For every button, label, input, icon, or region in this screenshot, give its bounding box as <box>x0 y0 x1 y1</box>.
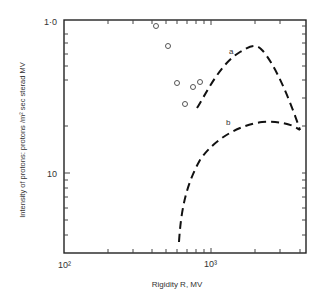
curve-a-label: a <box>229 47 234 56</box>
y-axis-ticks-left <box>64 34 70 235</box>
chart: 1·0 10 10² 10³ Rigidity R, MV Intensity … <box>0 0 322 305</box>
curve-b-label: b <box>226 118 231 127</box>
x-axis-ticks-top <box>108 20 280 25</box>
x-tick-label-10-2: 10² <box>58 260 71 270</box>
x-axis-title: Rigidity R, MV <box>152 280 203 289</box>
y-tick-label-top: 1·0 <box>44 17 57 27</box>
x-tick-label-10-3: 10³ <box>204 259 217 269</box>
curve-a <box>197 46 300 130</box>
y-axis-title: Intensity of protons: protons /m² sec st… <box>18 62 27 217</box>
curve-b <box>179 122 300 242</box>
data-points <box>154 24 203 107</box>
x-axis-ticks-bottom <box>108 248 300 253</box>
plot-frame <box>64 20 306 253</box>
y-tick-label-10: 10 <box>47 169 57 179</box>
